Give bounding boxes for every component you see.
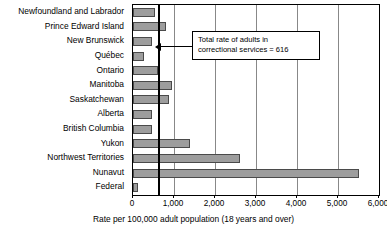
category-label: Prince Edward Island [0,19,128,34]
x-tick [132,195,133,198]
bar [133,95,169,104]
annotation-line-1: Total rate of adults in [198,35,314,45]
x-tick-label: 4,000 [286,199,307,208]
chart-figure: Newfoundland and LabradorPrince Edward I… [0,0,387,231]
bar-row [133,122,379,137]
bar [133,52,144,61]
bar [133,169,359,178]
x-tick [378,195,379,198]
bar-row [133,166,379,181]
x-axis: 01,0002,0003,0004,0005,0006,000 [132,195,379,211]
total-rate-reference-line [158,4,160,196]
annotation-line-2: correctional services = 616 [198,45,314,55]
x-tick-label: 6,000 [368,199,387,208]
category-label: Federal [0,179,128,194]
bar-row [133,136,379,151]
category-label: Nunavut [0,165,128,180]
annotation-callout: Total rate of adults in correctional ser… [192,31,320,60]
bar-row [133,63,379,78]
bar [133,125,152,134]
bar [133,8,155,17]
category-label: Alberta [0,106,128,121]
category-label: Saskatchewan [0,92,128,107]
x-tick [296,195,297,198]
bar [133,139,190,148]
bar [133,110,152,119]
bar [133,183,138,192]
x-tick [173,195,174,198]
bar-row [133,180,379,195]
bar-row [133,5,379,20]
category-axis-labels: Newfoundland and LabradorPrince Edward I… [0,4,128,194]
bar [133,22,166,31]
bar [133,81,172,90]
x-tick [337,195,338,198]
annotation-leader-line [159,46,193,47]
category-label: New Brunswick [0,33,128,48]
x-axis-title: Rate per 100,000 adult population (18 ye… [0,214,387,224]
category-label: Northwest Territories [0,150,128,165]
x-tick [255,195,256,198]
category-label: Ontario [0,62,128,77]
category-label: Yukon [0,135,128,150]
x-tick-label: 1,000 [163,199,184,208]
x-tick-label: 5,000 [327,199,348,208]
bar [133,37,152,46]
category-label: Newfoundland and Labrador [0,4,128,19]
x-tick-label: 2,000 [204,199,225,208]
category-label: British Columbia [0,121,128,136]
bar [133,66,158,75]
bar [133,154,240,163]
category-label: Manitoba [0,77,128,92]
category-label: Québec [0,48,128,63]
bar-row [133,93,379,108]
bar-row [133,78,379,93]
annotation-arrow-icon [155,43,161,51]
x-tick-label: 3,000 [245,199,266,208]
bar-row [133,151,379,166]
x-tick [214,195,215,198]
bar-row [133,107,379,122]
x-tick-label: 0 [130,199,135,208]
